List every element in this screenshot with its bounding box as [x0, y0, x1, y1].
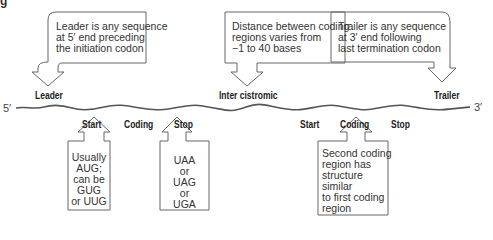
stop-label-2: Stop: [391, 119, 410, 130]
start-label-2: Start: [300, 119, 319, 130]
stop-label-1: Stop: [174, 119, 193, 130]
trailer-callout-text: Trailer is any sequence at 3′ end follow…: [338, 21, 446, 54]
coding-label-2: Coding: [340, 119, 369, 130]
second-coding-callout-text: Second coding region has structure simil…: [322, 148, 391, 214]
five-prime-end-label: 5′: [3, 102, 11, 114]
trailer-label: Trailer: [434, 90, 460, 101]
intercistronic-callout-text: Distance between coding regions varies f…: [232, 21, 349, 54]
start-codons-callout-text: Usually AUG; can be GUG or UUG: [68, 152, 110, 207]
three-prime-end-label: 3′: [474, 101, 482, 113]
mrna-strand: [16, 104, 470, 110]
start-label-1: Start: [82, 119, 101, 130]
leader-label: Leader: [35, 90, 63, 101]
leader-callout-text: Leader is any sequence at 5′ end precedi…: [56, 21, 168, 54]
coding-label-1: Coding: [124, 119, 153, 130]
stop-codons-callout-text: UAA or UAG or UGA: [160, 155, 209, 210]
intercistronic-label: Inter cistromic: [219, 90, 278, 101]
